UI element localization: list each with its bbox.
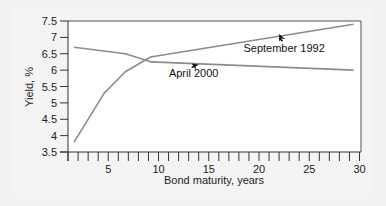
x-tick-label: 5 [105, 163, 111, 175]
plot-background [68, 21, 361, 152]
y-tick-label: 5 [51, 97, 57, 109]
y-tick-label: 7 [51, 31, 57, 43]
y-tick-label: 5.5 [42, 81, 57, 93]
y-tick-label: 3.5 [42, 146, 57, 158]
x-axis: 51015202530 [60, 152, 366, 175]
x-tick-label: 10 [152, 163, 164, 175]
plot-area [68, 21, 361, 152]
annotation-september-1992: September 1992 [243, 42, 324, 54]
x-tick-label: 30 [353, 163, 365, 175]
yield-curve-chart: 3.544.555.566.577.5 51015202530 Septembe… [0, 0, 386, 206]
y-axis: 3.544.555.566.577.5 [42, 15, 68, 161]
y-tick-label: 4 [51, 130, 57, 142]
y-axis-title: Yield, % [23, 67, 35, 107]
y-tick-label: 6.5 [42, 48, 57, 60]
y-tick-label: 4.5 [42, 113, 57, 125]
x-axis-title: Bond maturity, years [164, 174, 265, 186]
annotation-april-2000: April 2000 [169, 67, 219, 79]
x-tick-label: 25 [303, 163, 315, 175]
y-tick-label: 7.5 [42, 15, 57, 27]
y-tick-label: 6 [51, 64, 57, 76]
